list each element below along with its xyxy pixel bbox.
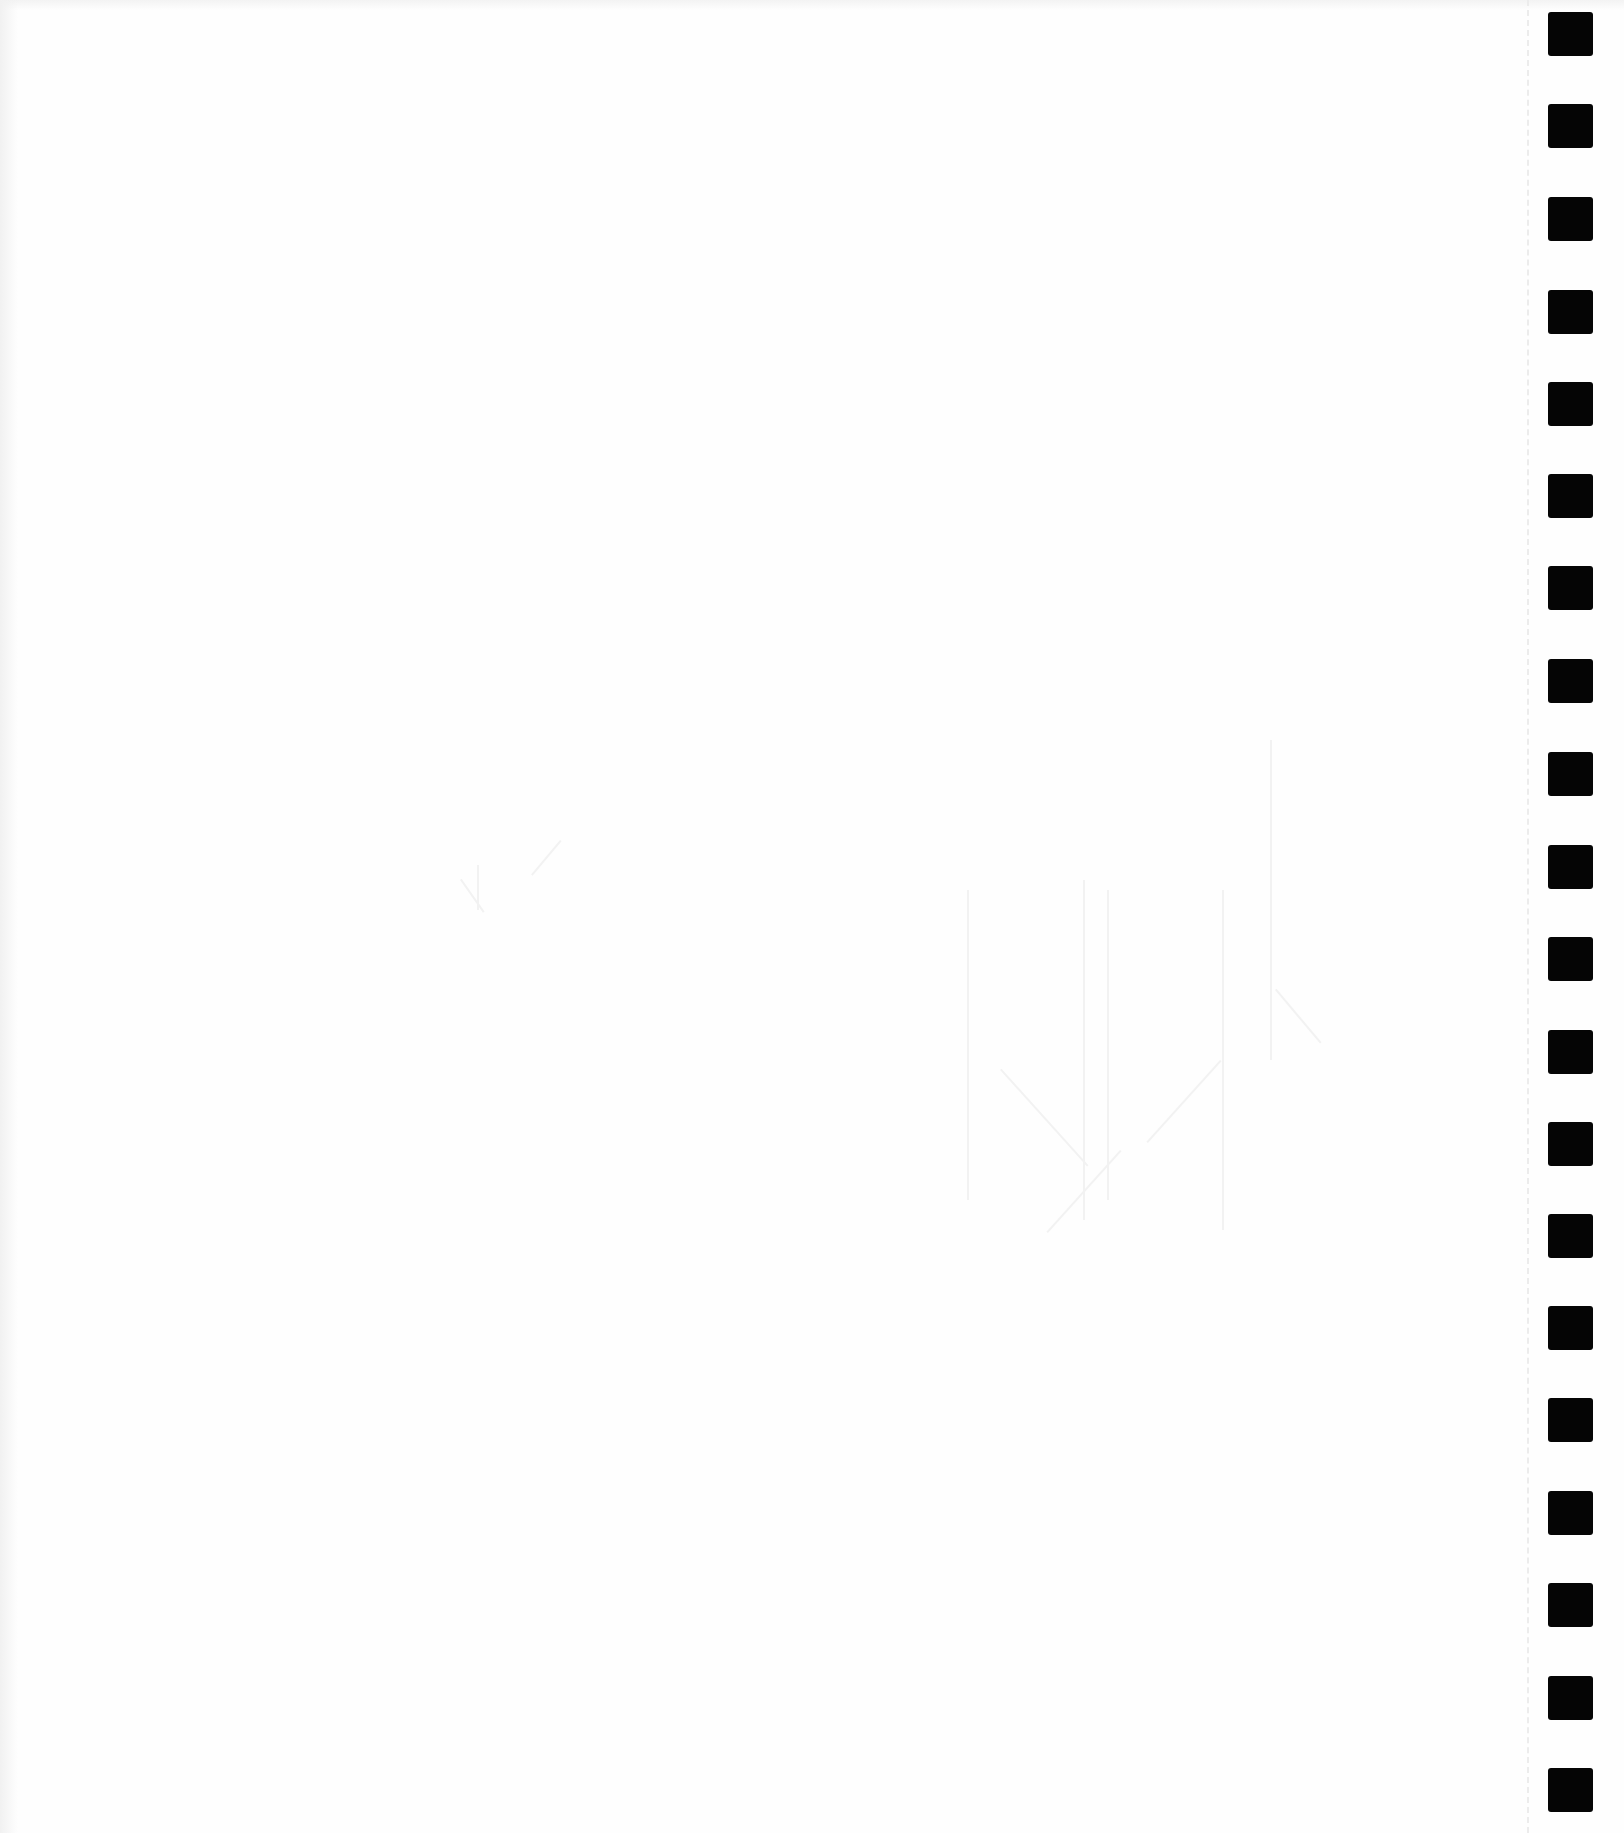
bleed-through-mark xyxy=(531,840,561,876)
perforation-line xyxy=(1527,0,1529,1833)
timing-mark-strip xyxy=(1548,0,1594,1833)
scan-edge-shadow-left xyxy=(0,0,18,1833)
timing-mark xyxy=(1548,12,1593,56)
timing-mark xyxy=(1548,1306,1593,1350)
timing-mark xyxy=(1548,1030,1593,1074)
timing-mark xyxy=(1548,937,1593,981)
timing-mark xyxy=(1548,752,1593,796)
timing-mark xyxy=(1548,290,1593,334)
timing-mark xyxy=(1548,1768,1593,1812)
timing-mark xyxy=(1548,1398,1593,1442)
bleed-through-mark xyxy=(967,890,969,1200)
bleed-through-mark xyxy=(460,879,485,913)
bleed-through-mark xyxy=(1222,890,1224,1230)
timing-mark xyxy=(1548,382,1593,426)
bleed-through-mark xyxy=(1270,740,1272,1060)
bleed-through-mark xyxy=(477,865,479,910)
timing-mark xyxy=(1548,566,1593,610)
timing-mark xyxy=(1548,1491,1593,1535)
timing-mark xyxy=(1548,1583,1593,1627)
bleed-through-mark xyxy=(1083,880,1085,1220)
bleed-through-mark xyxy=(1000,1069,1088,1167)
bleed-through-mark xyxy=(1107,890,1109,1200)
scanned-page xyxy=(0,0,1624,1833)
timing-mark xyxy=(1548,1676,1593,1720)
bleed-through-mark xyxy=(1146,1060,1221,1143)
timing-mark xyxy=(1548,1122,1593,1166)
timing-mark xyxy=(1548,104,1593,148)
timing-mark xyxy=(1548,474,1593,518)
timing-mark xyxy=(1548,845,1593,889)
timing-mark xyxy=(1548,197,1593,241)
timing-mark xyxy=(1548,659,1593,703)
bleed-through-mark xyxy=(1275,989,1322,1044)
timing-mark xyxy=(1548,1214,1593,1258)
scan-edge-shadow-top xyxy=(0,0,1624,10)
